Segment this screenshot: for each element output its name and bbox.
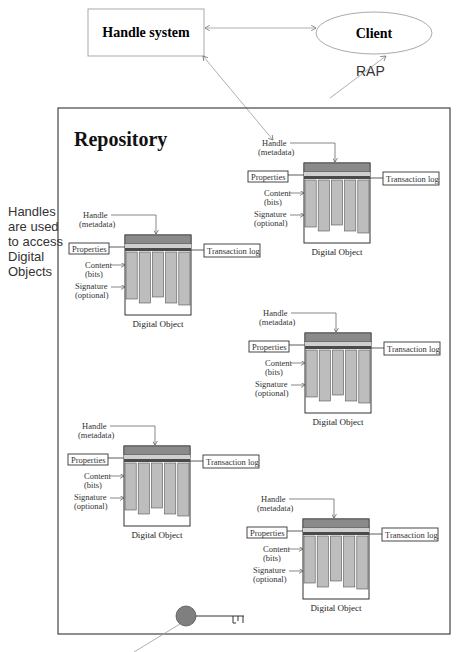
content-column	[126, 252, 137, 299]
digital-object: Handle(metadata)PropertiesTransaction lo…	[248, 138, 440, 257]
handle-band	[125, 235, 191, 244]
handle-resolution-connector	[203, 56, 273, 140]
handle-band	[305, 333, 371, 342]
key-icon	[176, 606, 244, 626]
svg-text:to access: to access	[8, 234, 63, 249]
digital-object: Handle(metadata)PropertiesTransaction lo…	[69, 210, 261, 329]
digital-object-caption: Digital Object	[312, 417, 364, 427]
digital-object-caption: Digital Object	[310, 603, 362, 613]
content-column	[330, 536, 341, 581]
rap-label: RAP	[356, 63, 385, 79]
transaction-log-label: Transaction log	[387, 344, 441, 354]
content-column	[179, 252, 190, 305]
transaction-log-band	[124, 459, 190, 462]
transaction-log-band	[305, 346, 371, 349]
digital-objects: Handle(metadata)PropertiesTransaction lo…	[68, 138, 441, 613]
content-column	[345, 180, 356, 231]
svg-text:Digital: Digital	[8, 249, 44, 264]
content-column	[305, 180, 316, 227]
handle-system-node: Handle system	[88, 9, 204, 56]
handle-label-sub: (metadata)	[78, 430, 115, 440]
signature-label-sub: (optional)	[253, 574, 287, 584]
handle-band	[303, 519, 369, 528]
digital-object-caption: Digital Object	[132, 319, 184, 329]
content-column	[166, 252, 177, 303]
svg-text:Handles: Handles	[8, 204, 56, 219]
content-column	[151, 463, 162, 508]
handle-label-sub: (metadata)	[258, 147, 295, 157]
content-column	[332, 350, 343, 395]
transaction-log-label: Transaction log	[385, 530, 439, 540]
properties-band	[125, 244, 191, 248]
transaction-log-band	[125, 248, 191, 251]
signature-label-sub: (optional)	[75, 290, 109, 300]
properties-label: Properties	[251, 172, 285, 182]
transaction-log-label: Transaction log	[207, 246, 261, 256]
handle-arrow	[110, 426, 155, 445]
digital-object: Handle(metadata)PropertiesTransaction lo…	[249, 308, 441, 427]
signature-label-sub: (optional)	[74, 501, 108, 511]
key-pointer-line	[134, 624, 180, 652]
handle-arrow	[291, 313, 336, 332]
properties-band	[305, 342, 371, 346]
content-label-sub: (bits)	[84, 480, 102, 490]
svg-text:are used: are used	[8, 219, 59, 234]
content-column	[346, 350, 357, 401]
content-column	[139, 252, 150, 303]
digital-object-caption: Digital Object	[311, 247, 363, 257]
content-column	[319, 350, 330, 401]
content-column	[304, 536, 315, 583]
properties-label: Properties	[252, 342, 286, 352]
properties-band	[303, 528, 369, 532]
signature-label-sub: (optional)	[255, 388, 289, 398]
content-column	[358, 180, 369, 233]
content-label-sub: (bits)	[265, 367, 283, 377]
properties-band	[124, 455, 190, 459]
content-column	[152, 252, 163, 297]
svg-text:Objects: Objects	[8, 264, 53, 279]
content-column	[317, 536, 328, 587]
signature-label-sub: (optional)	[254, 218, 288, 228]
handle-arrow	[111, 215, 156, 234]
handle-system-label: Handle system	[102, 25, 190, 40]
content-column	[331, 180, 342, 225]
digital-object-caption: Digital Object	[131, 530, 183, 540]
content-column	[165, 463, 176, 514]
digital-object: Handle(metadata)PropertiesTransaction lo…	[68, 421, 260, 540]
content-column	[306, 350, 317, 397]
transaction-log-band	[304, 176, 370, 179]
content-column	[178, 463, 189, 516]
properties-band	[304, 172, 370, 176]
content-label-sub: (bits)	[263, 553, 281, 563]
repository-box	[58, 108, 450, 634]
content-column	[344, 536, 355, 587]
properties-label: Properties	[72, 244, 106, 254]
transaction-log-label: Transaction log	[386, 174, 440, 184]
content-column	[125, 463, 136, 510]
content-column	[318, 180, 329, 231]
handle-arrow	[290, 143, 335, 162]
properties-label: Properties	[250, 528, 284, 538]
content-column	[359, 350, 370, 403]
content-label-sub: (bits)	[264, 197, 282, 207]
handle-label-sub: (metadata)	[259, 317, 296, 327]
handle-system-diagram: Handle system Client RAP Repository Hand…	[0, 0, 459, 652]
client-node: Client	[316, 12, 432, 54]
handle-band	[304, 163, 370, 172]
digital-object: Handle(metadata)PropertiesTransaction lo…	[247, 494, 439, 613]
content-label-sub: (bits)	[85, 269, 103, 279]
repository-title: Repository	[74, 128, 167, 151]
side-note: Handles are used to access Digital Objec…	[8, 204, 63, 279]
transaction-log-label: Transaction log	[206, 457, 260, 467]
handle-label-sub: (metadata)	[79, 219, 116, 229]
client-label: Client	[356, 26, 393, 41]
handle-label-sub: (metadata)	[257, 503, 294, 513]
handle-arrow	[289, 499, 334, 518]
handle-band	[124, 446, 190, 455]
content-column	[357, 536, 368, 589]
content-column	[138, 463, 149, 514]
properties-label: Properties	[71, 455, 105, 465]
transaction-log-band	[303, 532, 369, 535]
